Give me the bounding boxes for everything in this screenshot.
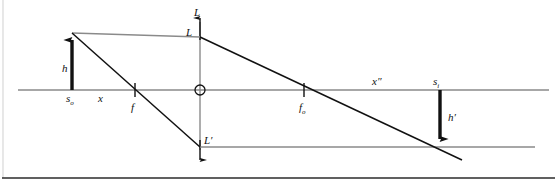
page-furniture bbox=[2, 0, 555, 178]
label-image-distance: si bbox=[433, 75, 439, 90]
label-image-distance-subscript: i bbox=[437, 82, 439, 90]
label-image-height: h′ bbox=[448, 111, 457, 123]
label-front-focal-length: f bbox=[131, 101, 136, 113]
label-back-focal-length: fo bbox=[299, 101, 306, 116]
label-lens-top-outer: L bbox=[193, 6, 200, 18]
label-lens-bottom: L′ bbox=[203, 134, 213, 146]
label-newton-object-distance: x bbox=[97, 92, 103, 104]
rays-group bbox=[72, 33, 462, 160]
label-object-distance: so bbox=[66, 92, 74, 107]
parallel-ray-refracted-segment bbox=[200, 37, 462, 160]
thin-lens-ray-diagram-canvas: h so x f L L L′ fo x″ si h′ bbox=[0, 0, 557, 187]
label-lens-top-inner: L bbox=[185, 26, 192, 38]
label-back-focal-length-subscript: o bbox=[302, 108, 306, 116]
label-newton-image-distance: x″ bbox=[371, 75, 382, 87]
label-object-height: h bbox=[62, 62, 68, 74]
parallel-ray-incident-segment bbox=[72, 33, 200, 37]
ray-diagram-figure: h so x f L L L′ fo x″ si h′ bbox=[0, 0, 557, 187]
label-object-distance-subscript: o bbox=[70, 99, 74, 107]
